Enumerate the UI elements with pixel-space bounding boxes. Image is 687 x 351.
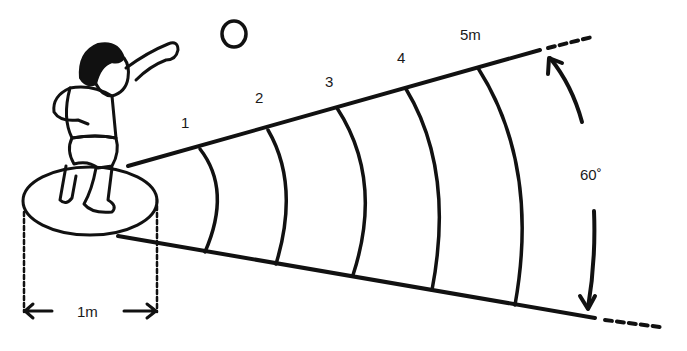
distance-label-4: 4 [397,49,405,66]
throwing-circle [23,167,157,235]
distance-label-1: 1 [181,114,189,131]
hair [80,43,124,85]
right-leg [84,168,114,212]
throwing-sector-diagram: 1 2 3 4 5m 60˚ 1m [0,0,687,351]
ball-icon [222,21,246,47]
sector-upper-dashed [548,37,592,48]
distance-label-2: 2 [255,89,263,106]
arc-5m [478,68,522,305]
diameter-label: 1m [77,303,98,320]
arc-4m [406,89,439,290]
sector-lower-dashed [605,320,660,327]
angle-label: 60˚ [580,166,602,183]
shorts [69,136,117,168]
arc-2m [268,130,286,264]
arc-1m [200,149,217,252]
child-thrower-figure [54,43,178,212]
dimension-arrow-right [124,304,156,318]
left-leg [60,166,76,203]
sector-lower-line [118,236,595,318]
torso [66,87,116,138]
other-arm [54,88,88,124]
angle-arrow-up [550,58,582,122]
dimension-arrow-left [25,304,52,318]
angle-arrow-down [588,211,594,308]
throwing-arm [126,43,178,80]
distance-label-5m: 5m [460,26,481,43]
distance-label-3: 3 [325,73,333,90]
arc-3m [337,108,365,275]
